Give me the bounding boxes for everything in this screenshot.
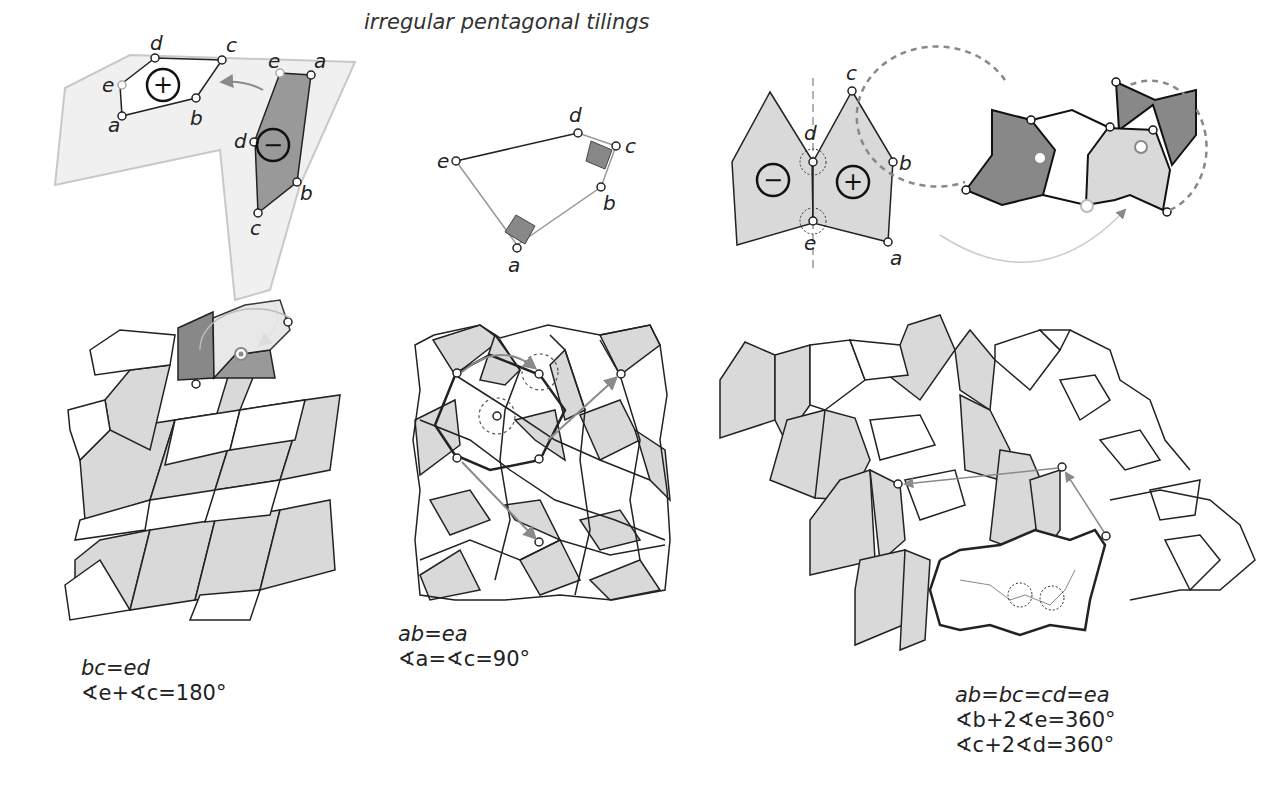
svg-text:−: −	[263, 131, 283, 159]
panel-b-tiling	[412, 325, 674, 600]
panel-a-prototile: + − d c e a b e a d b c	[55, 31, 355, 345]
svg-text:a: a	[108, 113, 120, 137]
panel-b-prototile: d c e b a	[437, 103, 636, 277]
caption-c-line1: ab=bc=cd=ea	[955, 683, 1116, 708]
svg-text:b: b	[190, 106, 203, 130]
svg-text:e: e	[804, 231, 816, 255]
svg-text:c: c	[226, 33, 237, 57]
svg-text:a: a	[890, 246, 902, 270]
svg-text:b: b	[603, 191, 616, 215]
svg-text:c: c	[846, 61, 857, 85]
svg-text:b: b	[899, 151, 912, 175]
svg-text:d: d	[150, 31, 163, 55]
svg-text:c: c	[250, 216, 261, 240]
svg-text:a: a	[314, 49, 326, 73]
svg-text:e: e	[437, 149, 449, 173]
svg-text:c: c	[625, 134, 636, 158]
caption-a-line1: bc=ed	[81, 656, 226, 681]
svg-text:d: d	[569, 103, 582, 127]
svg-text:−: −	[763, 166, 783, 194]
svg-text:a: a	[508, 253, 520, 277]
caption-c-line2: ∢b+2∢e=360°	[955, 708, 1116, 733]
svg-text:+: +	[153, 71, 173, 99]
panel-c-tiling	[720, 315, 1255, 650]
svg-text:b: b	[300, 181, 313, 205]
svg-text:e: e	[102, 73, 114, 97]
caption-panel-b: ab=ea ∢a=∢c=90°	[398, 622, 530, 672]
panel-c-prototile: − + c d b e a	[732, 61, 912, 272]
caption-b-line1: ab=ea	[398, 622, 530, 647]
svg-text:+: +	[843, 168, 863, 196]
svg-text:d: d	[234, 129, 247, 153]
caption-a-line2: ∢e+∢c=180°	[81, 681, 226, 706]
panel-a-tiling	[65, 300, 340, 620]
caption-panel-c: ab=bc=cd=ea ∢b+2∢e=360° ∢c+2∢d=360°	[955, 683, 1116, 758]
caption-panel-a: bc=ed ∢e+∢c=180°	[81, 656, 226, 706]
svg-text:e: e	[268, 49, 280, 73]
caption-b-line2: ∢a=∢c=90°	[398, 647, 530, 672]
svg-text:d: d	[804, 121, 817, 145]
caption-c-line3: ∢c+2∢d=360°	[955, 733, 1116, 758]
